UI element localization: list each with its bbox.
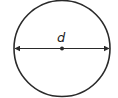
diameter-label: d <box>57 30 66 45</box>
circle-diagram: d <box>0 0 118 98</box>
center-point <box>60 47 64 51</box>
